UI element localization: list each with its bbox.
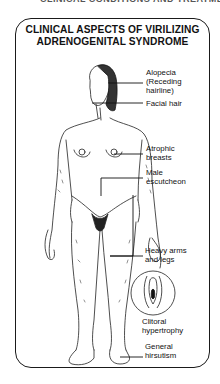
- pubic-hair: [92, 214, 108, 231]
- leader-heavy-arms-legs: [110, 195, 143, 256]
- hip-line: [72, 196, 136, 217]
- breast-left: [79, 149, 85, 155]
- label-alopecia: Alopecia (Receding hairline): [146, 68, 182, 95]
- label-male-line2: escutcheon: [146, 177, 186, 186]
- label-atrophic-line2: breasts: [146, 153, 175, 162]
- label-alopecia-line1: Alopecia: [146, 68, 182, 77]
- label-male-escutcheon: Male escutcheon: [146, 168, 186, 186]
- label-heavy-arms-legs: Heavy arms and legs: [145, 246, 187, 264]
- label-heavy-line1: Heavy arms: [145, 246, 187, 255]
- label-heavy-line2: and legs: [145, 255, 187, 264]
- leader-male-escutcheon: [101, 178, 143, 196]
- label-atrophic-breasts: Atrophic breasts: [146, 144, 175, 162]
- left-foot: [69, 350, 94, 365]
- label-alopecia-line3: hairline): [146, 86, 182, 95]
- label-general-line2: hirsutism: [145, 351, 176, 360]
- label-alopecia-line2: (Receding: [146, 77, 182, 86]
- label-clitoral-line2: hypertrophy: [142, 326, 183, 335]
- inset-circle: [131, 271, 175, 315]
- label-general-hirsutism: General hirsutism: [145, 342, 176, 360]
- label-clitoral-hypertrophy: Clitoral hypertrophy: [142, 317, 183, 335]
- label-facial-hair: Facial hair: [146, 99, 182, 108]
- legs-outline: [71, 222, 136, 350]
- label-atrophic-line1: Atrophic: [146, 144, 175, 153]
- label-general-line1: General: [145, 342, 176, 351]
- label-male-line1: Male: [146, 168, 186, 177]
- hirsutism-marks: [58, 165, 151, 302]
- hair: [98, 65, 117, 111]
- label-clitoral-line1: Clitoral: [142, 317, 183, 326]
- anatomical-illustration: [0, 0, 220, 384]
